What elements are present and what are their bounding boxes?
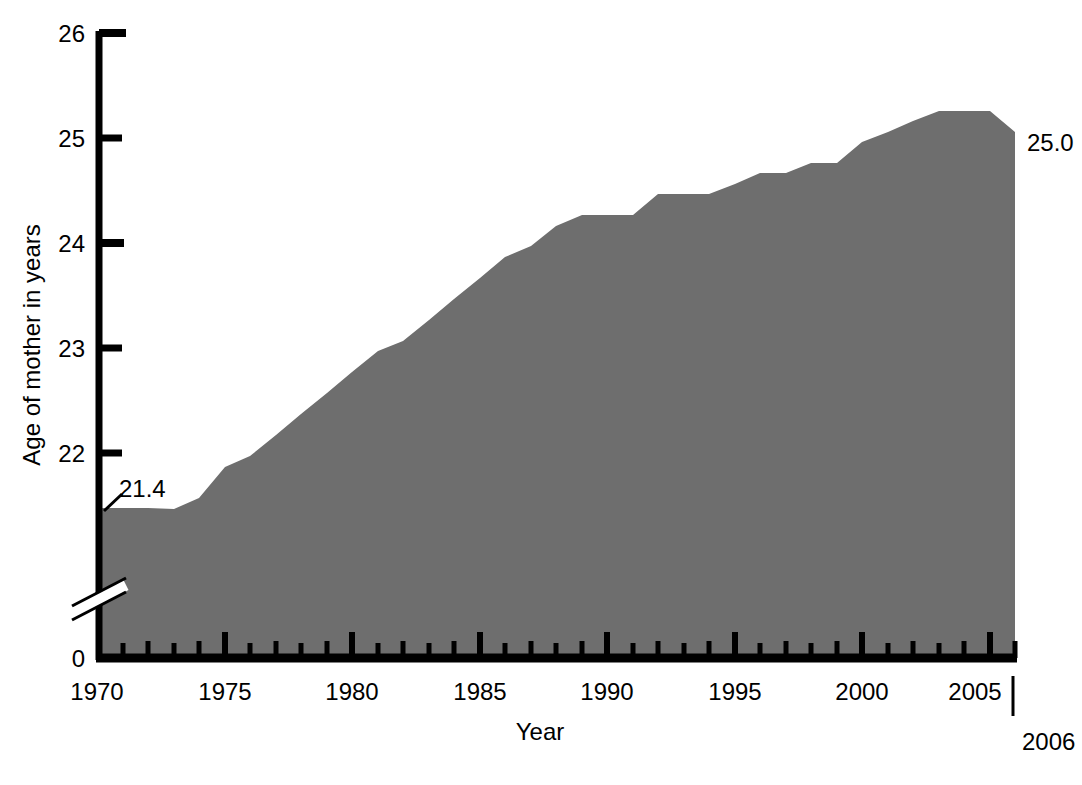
x-tick-label-2006: 2006 <box>1022 728 1075 755</box>
y-tick-label-22: 22 <box>58 440 85 467</box>
y-tick-labels: 26 25 24 23 22 0 <box>58 20 85 672</box>
x-tick-label-1970: 1970 <box>70 678 123 705</box>
y-axis-title: Age of mother in years <box>18 224 45 465</box>
y-tick-label-23: 23 <box>58 335 85 362</box>
y-tick-label-25: 25 <box>58 125 85 152</box>
x-tick-label-2000: 2000 <box>835 678 888 705</box>
y-tick-label-0: 0 <box>72 645 85 672</box>
x-tick-label-2005: 2005 <box>948 678 1001 705</box>
x-axis-title: Year <box>516 718 565 745</box>
area-series-age-of-mother <box>97 111 1015 658</box>
area-chart: 26 25 24 23 22 0 1970 1975 1980 1985 199… <box>0 0 1082 785</box>
annotation-label-21-4: 21.4 <box>119 475 166 502</box>
area-path <box>97 111 1015 658</box>
x-tick-label-1985: 1985 <box>453 678 506 705</box>
x-tick-label-1990: 1990 <box>580 678 633 705</box>
x-tick-label-1975: 1975 <box>198 678 251 705</box>
x-tick-labels: 1970 1975 1980 1985 1990 1995 2000 2005 … <box>70 676 1075 755</box>
x-tick-label-1995: 1995 <box>708 678 761 705</box>
annotation-label-25-0: 25.0 <box>1027 129 1074 156</box>
y-tick-label-26: 26 <box>58 20 85 47</box>
y-tick-label-24: 24 <box>58 230 85 257</box>
chart-figure: 26 25 24 23 22 0 1970 1975 1980 1985 199… <box>0 0 1082 785</box>
x-tick-label-1980: 1980 <box>325 678 378 705</box>
